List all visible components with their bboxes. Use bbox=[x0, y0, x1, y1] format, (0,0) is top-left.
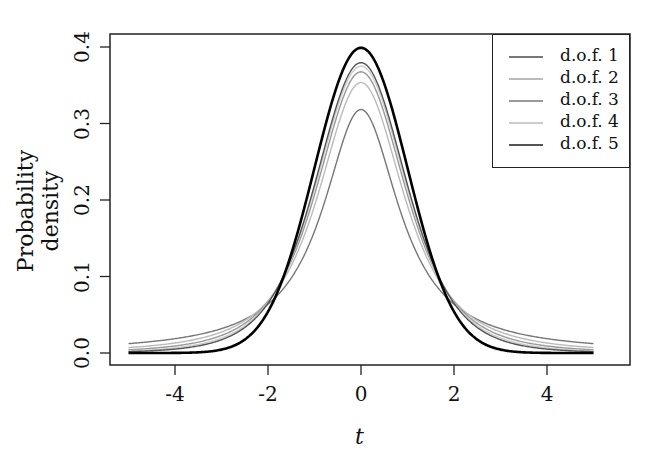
legend-line-icon bbox=[509, 56, 543, 58]
x-tick-label: 0 bbox=[341, 382, 381, 406]
y-tick-label: 0.3 bbox=[70, 104, 94, 144]
legend-label: d.o.f. 4 bbox=[560, 111, 619, 131]
y-tick-label: 0.2 bbox=[70, 180, 94, 220]
legend-item-dof-1: d.o.f. 1 bbox=[493, 45, 629, 69]
chart-root: Probability density t 0.0 0.1 0.2 0.3 0.… bbox=[0, 0, 656, 468]
x-tick-label: -4 bbox=[155, 382, 195, 406]
legend-line-icon bbox=[509, 78, 543, 80]
y-tick-label: 0.0 bbox=[70, 333, 94, 373]
legend-label: d.o.f. 3 bbox=[560, 89, 619, 109]
x-tick-label: 4 bbox=[527, 382, 567, 406]
legend-line-icon bbox=[509, 144, 543, 146]
legend: d.o.f. 1 d.o.f. 2 d.o.f. 3 d.o.f. 4 d.o.… bbox=[492, 34, 630, 168]
legend-label: d.o.f. 1 bbox=[560, 45, 619, 65]
legend-item-dof-4: d.o.f. 4 bbox=[493, 111, 629, 135]
x-tick-label: 2 bbox=[434, 382, 474, 406]
legend-line-icon bbox=[509, 122, 543, 124]
x-axis-label: t bbox=[355, 424, 364, 449]
legend-label: d.o.f. 2 bbox=[560, 67, 619, 87]
legend-item-dof-5: d.o.f. 5 bbox=[493, 133, 629, 157]
y-axis-label: Probability density bbox=[13, 131, 63, 291]
legend-line-icon bbox=[509, 100, 543, 102]
legend-label: d.o.f. 5 bbox=[560, 133, 619, 153]
legend-item-dof-3: d.o.f. 3 bbox=[493, 89, 629, 113]
y-tick-label: 0.4 bbox=[70, 27, 94, 67]
x-tick-label: -2 bbox=[248, 382, 288, 406]
legend-item-dof-2: d.o.f. 2 bbox=[493, 67, 629, 91]
y-tick-label: 0.1 bbox=[70, 257, 94, 297]
